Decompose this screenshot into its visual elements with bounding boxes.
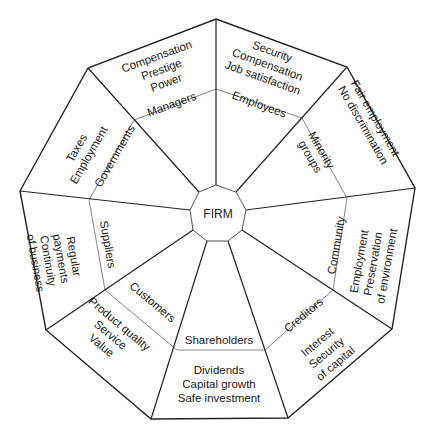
- segment-shareholders: Shareholders: [185, 334, 254, 346]
- interests-creditors: Interest Security of capital: [296, 323, 357, 383]
- interests-community: Employment Preservation of environment: [347, 222, 400, 305]
- segment-customers: Customers: [127, 279, 177, 324]
- segment-community: Community: [325, 215, 347, 275]
- svg-text:Dividends: Dividends: [194, 364, 245, 376]
- svg-text:Safe investment: Safe investment: [178, 392, 261, 404]
- svg-text:Capital growth: Capital growth: [182, 378, 256, 390]
- firm-label: FIRM: [203, 207, 232, 221]
- stakeholder-diagram: FIRM Managers Compensation Prestige Powe…: [0, 0, 432, 435]
- segment-minority-groups: Minority groups: [295, 130, 337, 178]
- interests-minority-groups: Fair employment No discrimination: [336, 77, 403, 166]
- segment-managers: Managers: [146, 90, 198, 119]
- interests-customers: Product quality Service Value: [69, 295, 153, 375]
- segment-suppliers: Suppliers: [98, 220, 118, 270]
- stakeholder-label: Customers: [127, 279, 177, 324]
- interests-employees: Security Compensation Job satisfaction: [223, 32, 311, 97]
- segment-creditors: Creditors: [282, 295, 326, 334]
- stakeholder-label: Creditors: [282, 295, 326, 334]
- stakeholder-label: Suppliers: [98, 220, 118, 270]
- segment-employees: Employees: [231, 89, 289, 120]
- interests-suppliers: Regular payments Continuity of business: [25, 227, 85, 293]
- stakeholder-label: Managers: [146, 90, 198, 119]
- stakeholder-label: Community: [325, 215, 347, 275]
- stakeholder-label: Employees: [231, 89, 289, 120]
- interests-shareholders: Dividends Capital growth Safe investment: [178, 364, 261, 404]
